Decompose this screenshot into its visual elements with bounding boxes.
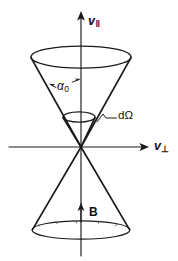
solid-angle-rim-ellipse bbox=[63, 112, 95, 122]
axes-group bbox=[9, 11, 149, 256]
alpha-base: α bbox=[57, 79, 64, 93]
magnetic-field-arrow-group bbox=[78, 203, 85, 223]
v-perpendicular-subscript: ⊥ bbox=[161, 144, 170, 154]
magnetic-field-label: B bbox=[89, 206, 98, 218]
v-perpendicular-base: v bbox=[154, 139, 161, 153]
solid-angle-label: dΩ bbox=[118, 110, 133, 122]
lower-cone-left-edge bbox=[33, 147, 81, 229]
solid-angle-leader-group bbox=[97, 114, 117, 122]
pitch-angle-label: α0 bbox=[57, 80, 69, 94]
v-parallel-subscript: ‖ bbox=[95, 19, 100, 29]
loss-cone-figure: v‖ v⊥ α0 dΩ B bbox=[0, 0, 178, 261]
d-omega-leader-line bbox=[97, 114, 117, 122]
v-parallel-axis-label: v‖ bbox=[88, 15, 100, 29]
velocity-space-drawing bbox=[0, 0, 178, 261]
v-perpendicular-axis-label: v⊥ bbox=[154, 140, 170, 154]
upper-cone-right-edge bbox=[81, 58, 131, 147]
alpha-subscript: 0 bbox=[64, 84, 70, 94]
v-parallel-base: v bbox=[88, 14, 95, 28]
